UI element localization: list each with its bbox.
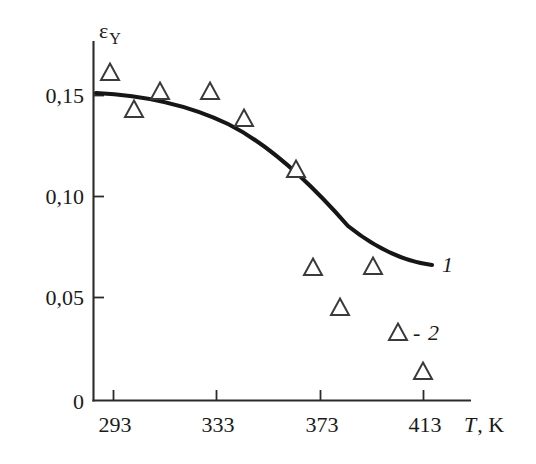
chart-figure: 0,15 0,10 0,05 0 293 333 373 413 εY T, K…	[0, 0, 536, 464]
legend-separator: -	[413, 320, 420, 345]
x-tick-labels: 293 333 373 413	[99, 412, 442, 437]
y-axis-title: εY	[99, 18, 121, 47]
data-point	[125, 101, 143, 118]
x-axis-title-unit: , K	[477, 412, 504, 437]
series-2-points	[101, 64, 432, 380]
data-point	[101, 64, 119, 81]
legend-series-2: - 2	[389, 320, 439, 345]
y-tick-label-0: 0	[73, 389, 84, 414]
y-axis-ticks	[94, 96, 105, 298]
data-point	[151, 83, 169, 100]
x-tick-label-373: 373	[306, 412, 339, 437]
data-point	[235, 110, 253, 127]
y-axis-title-symbol: ε	[99, 18, 108, 43]
x-axis-ticks	[114, 390, 424, 401]
x-axis-title-symbol: T	[464, 412, 478, 437]
data-point	[414, 363, 432, 380]
series-1-label: 1	[442, 252, 453, 277]
data-point	[331, 299, 349, 316]
x-tick-label-333: 333	[202, 412, 235, 437]
data-point	[201, 83, 219, 100]
data-point	[304, 259, 322, 276]
y-tick-labels: 0,15 0,10 0,05 0	[46, 83, 85, 414]
x-tick-label-293: 293	[99, 412, 132, 437]
legend-triangle-icon	[389, 324, 407, 341]
axes	[94, 42, 471, 401]
data-point	[364, 258, 382, 275]
y-tick-label-0_10: 0,10	[46, 184, 85, 209]
series-1-curve	[96, 93, 432, 265]
y-axis-title-subscript: Y	[109, 30, 121, 47]
series-2-label: 2	[428, 320, 439, 345]
x-axis-title: T, K	[464, 412, 504, 437]
x-tick-label-413: 413	[409, 412, 442, 437]
y-tick-label-0_15: 0,15	[46, 83, 85, 108]
y-tick-label-0_05: 0,05	[46, 285, 85, 310]
